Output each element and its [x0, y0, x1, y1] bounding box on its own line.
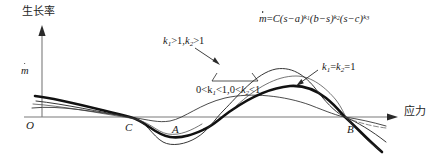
leader-k-between-a [212, 73, 217, 81]
equation-term3-exponent-subscript: 3 [366, 15, 369, 21]
equation-constant: C [273, 13, 280, 24]
point-label-a: A [172, 124, 179, 135]
annotation-k-equals-1: k1=k2=1 [322, 62, 355, 74]
annotation-k-greater-1-mid: >1, [171, 35, 185, 46]
point-label-b: B [347, 124, 354, 135]
growth-rate-stress-figure: 生长率 应力 m O C A B m=C(s−a)k1(b−s)k2(s−c)k… [0, 0, 443, 159]
y-axis-arrowhead [38, 25, 45, 36]
annotation-leaders [195, 48, 318, 86]
y-axis-symbol-text: m [21, 66, 29, 77]
annotation-k-between-0-1: 0<k1<1,0<k2<1 [196, 85, 260, 97]
annotation-k-between-mid: <1,0< [216, 84, 241, 95]
equation-lhs: m [259, 14, 267, 25]
annotation-k-between-pre: 0<k [196, 84, 212, 95]
y-axis-title: 生长率 [22, 6, 55, 17]
leader-k-greater-1-arrow [213, 57, 221, 65]
annotation-k-greater-1-post: >1 [193, 35, 204, 46]
leader-k-equals-1-arrow [296, 79, 304, 86]
figure-canvas [0, 0, 443, 159]
point-label-c: C [125, 122, 132, 133]
annotation-k-between-post: <1 [249, 84, 260, 95]
leader-k-greater-1 [195, 48, 216, 62]
annotation-k-greater-1: k1>1,k2>1 [163, 36, 204, 48]
equation-term3-base: (s−c) [340, 13, 363, 24]
origin-label: O [26, 120, 34, 131]
y-axis-symbol: m [21, 66, 29, 77]
equation-term2-base: (b−s) [310, 13, 334, 24]
x-axis-title: 应力 [404, 106, 426, 117]
equation-term1-base: (s−a) [280, 13, 304, 24]
x-axis-arrowhead [387, 113, 398, 120]
annotation-k-equals-1-post: =1 [344, 61, 355, 72]
growth-rate-equation: m=C(s−a)k1(b−s)k2(s−c)k3 [259, 14, 369, 25]
